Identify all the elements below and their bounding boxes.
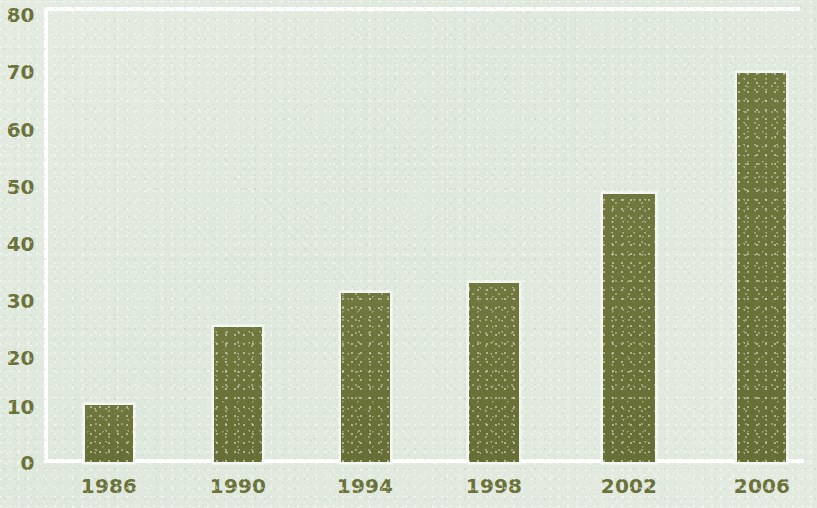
bar-1990 <box>214 327 262 462</box>
bar-chart-figure: 80 70 60 50 40 30 20 10 0 1986 1990 1994… <box>0 0 817 508</box>
y-axis-tick-20: 20 <box>0 348 34 368</box>
y-axis-tick-70: 70 <box>0 62 34 82</box>
x-axis-tick-1986: 1986 <box>49 476 169 496</box>
y-axis-tick-60: 60 <box>0 120 34 140</box>
bars-layer <box>0 0 817 508</box>
x-axis-tick-1998: 1998 <box>434 476 554 496</box>
bar-1986 <box>85 405 133 462</box>
y-axis-tick-10: 10 <box>0 397 34 417</box>
bar-2006 <box>737 73 786 462</box>
bar-1994 <box>341 293 390 462</box>
y-axis-tick-40: 40 <box>0 234 34 254</box>
y-axis-tick-0: 0 <box>0 453 34 473</box>
x-axis-tick-1990: 1990 <box>178 476 298 496</box>
x-axis-tick-1994: 1994 <box>305 476 425 496</box>
y-axis-tick-30: 30 <box>0 291 34 311</box>
y-axis-tick-80: 80 <box>0 5 34 25</box>
bar-1998 <box>469 283 519 462</box>
bar-2002 <box>603 194 655 462</box>
x-axis-tick-2006: 2006 <box>702 476 817 496</box>
y-axis-tick-50: 50 <box>0 177 34 197</box>
x-axis-tick-2002: 2002 <box>569 476 689 496</box>
